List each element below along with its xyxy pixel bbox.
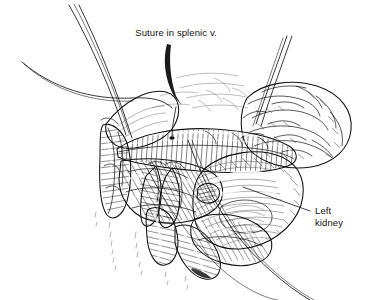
surgical-illustration-figure: Suture in splenic v. Left kidney: [0, 0, 370, 300]
kidney-label-line2: kidney: [315, 217, 343, 228]
illustration-canvas: Suture in splenic v. Left kidney: [0, 0, 370, 300]
suture-knot: [169, 136, 174, 140]
kidney-label-line1: Left: [315, 205, 332, 216]
suture-label-text: Suture in splenic v.: [135, 27, 217, 38]
figure-background: [0, 0, 370, 300]
